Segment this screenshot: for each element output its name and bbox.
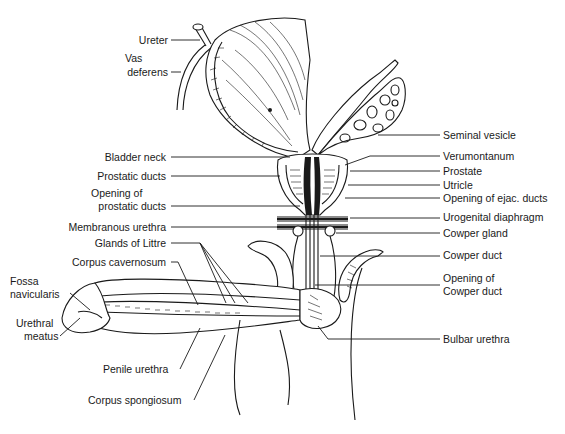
- label-cowper-duct: Cowper duct: [443, 249, 502, 261]
- label-penile-urethra: Penile urethra: [103, 363, 169, 375]
- label-cowper-gland: Cowper gland: [443, 227, 508, 239]
- labels-left: Ureter Vas deferens Bladder neck Prostat…: [10, 34, 182, 406]
- label-prostate: Prostate: [443, 165, 482, 177]
- label-opening-prostatic-ducts-line1: Opening of: [91, 187, 142, 199]
- label-bladder-neck: Bladder neck: [105, 151, 167, 163]
- label-opening-cowper-duct-line1: Opening of: [443, 272, 494, 284]
- label-fossa-navicularis-line2: navicularis: [10, 288, 60, 300]
- label-membranous-urethra: Membranous urethra: [69, 221, 167, 233]
- label-corpus-spongiosum: Corpus spongiosum: [88, 394, 182, 406]
- label-prostatic-ducts: Prostatic ducts: [97, 170, 166, 182]
- label-ureter: Ureter: [139, 34, 169, 46]
- label-opening-prostatic-ducts-line2: prostatic ducts: [98, 200, 166, 212]
- label-vas-deferens-line2: deferens: [127, 66, 168, 78]
- labels-right: Seminal vesicle Verumontanum Prostate Ut…: [443, 129, 547, 345]
- label-urogenital-diaphragm: Urogenital diaphragm: [443, 211, 544, 223]
- label-opening-cowper-duct-line2: Cowper duct: [443, 285, 502, 297]
- bladder-drawing: [206, 18, 310, 158]
- penis-shaft-drawing: [82, 279, 300, 334]
- label-opening-ejac-ducts: Opening of ejac. ducts: [443, 192, 547, 204]
- label-bulbar-urethra: Bulbar urethra: [443, 333, 510, 345]
- label-urethral-meatus-line1: Urethral: [16, 317, 53, 329]
- diagram-canvas: Ureter Vas deferens Bladder neck Prostat…: [0, 0, 565, 434]
- label-vas-deferens-line1: Vas: [125, 52, 142, 64]
- label-utricle: Utricle: [443, 179, 473, 191]
- ureter-drawing: [193, 24, 211, 46]
- label-fossa-navicularis-line1: Fossa: [10, 275, 39, 287]
- label-glands-of-littre: Glands of Littre: [95, 237, 166, 249]
- label-urethral-meatus-line2: meatus: [24, 330, 58, 342]
- seminal-vesicle-drawing: [312, 60, 405, 155]
- illustration: [62, 18, 405, 420]
- label-verumontanum: Verumontanum: [443, 150, 514, 162]
- label-corpus-cavernosum: Corpus cavernosum: [72, 256, 166, 268]
- anatomy-diagram: Ureter Vas deferens Bladder neck Prostat…: [0, 0, 565, 434]
- label-seminal-vesicle: Seminal vesicle: [443, 129, 516, 141]
